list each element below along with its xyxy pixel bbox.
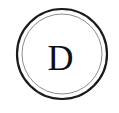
badge-canvas: D [0, 0, 119, 113]
badge-initial-letter: D [0, 0, 119, 113]
